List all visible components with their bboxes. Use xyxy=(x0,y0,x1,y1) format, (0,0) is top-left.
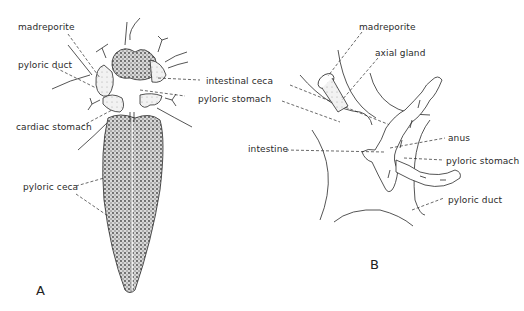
panel-b-drawing xyxy=(300,50,460,226)
label-b-pyloric-stomach: pyloric stomach xyxy=(446,156,519,166)
label-a-pyloric-ceca: pyloric ceca xyxy=(23,182,78,192)
panel-letter-b: B xyxy=(370,258,379,272)
label-a-cardiac-stomach: cardiac stomach xyxy=(16,122,92,132)
panel-a-drawing xyxy=(52,18,192,293)
figure-canvas: madreporite pyloric duct cardiac stomach… xyxy=(0,0,524,311)
label-a-madreporite: madreporite xyxy=(18,22,75,32)
panel-letter-a: A xyxy=(36,284,45,298)
label-a-pyloric-stomach: pyloric stomach xyxy=(198,94,271,104)
label-a-pyloric-duct: pyloric duct xyxy=(18,60,72,70)
label-b-pyloric-duct: pyloric duct xyxy=(448,195,502,205)
label-b-axial-gland: axial gland xyxy=(375,48,425,58)
label-b-madreporite: madreporite xyxy=(359,22,416,32)
label-b-intestine: intestine xyxy=(248,144,288,154)
label-b-anus: anus xyxy=(448,133,470,143)
label-a-intestinal-ceca: intestinal ceca xyxy=(206,76,273,86)
